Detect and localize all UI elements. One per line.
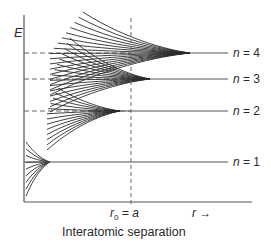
right-arrow-icon: → xyxy=(199,206,211,220)
level-reference-dashes xyxy=(24,53,131,111)
y-axis-label-energy: E xyxy=(14,27,23,39)
r0-subscript: 0 xyxy=(114,213,118,222)
level-value: = 3 xyxy=(243,72,260,86)
splitting-curve-n2 xyxy=(47,111,120,145)
level-var: n xyxy=(233,72,240,86)
equilibrium-separation-label: r0 = a xyxy=(110,207,139,224)
level-value: = 4 xyxy=(243,46,260,60)
splitting-curve-n1 xyxy=(26,162,50,189)
level-label-n1: n = 1 xyxy=(233,156,260,168)
level-value: = 2 xyxy=(243,104,260,118)
level-var: n xyxy=(233,104,240,118)
x-axis-label-r: r → xyxy=(192,207,211,219)
level-label-n4: n = 4 xyxy=(233,47,260,59)
level-value: = 1 xyxy=(243,155,260,169)
splitting-curve-n4 xyxy=(70,28,190,53)
r-symbol: r xyxy=(192,206,196,220)
r0-equals: = a xyxy=(122,206,139,220)
splitting-curves xyxy=(26,12,190,196)
x-axis-caption: Interatomic separation xyxy=(62,226,186,238)
level-var: n xyxy=(233,155,240,169)
level-label-n3: n = 3 xyxy=(233,73,260,85)
level-var: n xyxy=(233,46,240,60)
level-label-n2: n = 2 xyxy=(233,105,260,117)
